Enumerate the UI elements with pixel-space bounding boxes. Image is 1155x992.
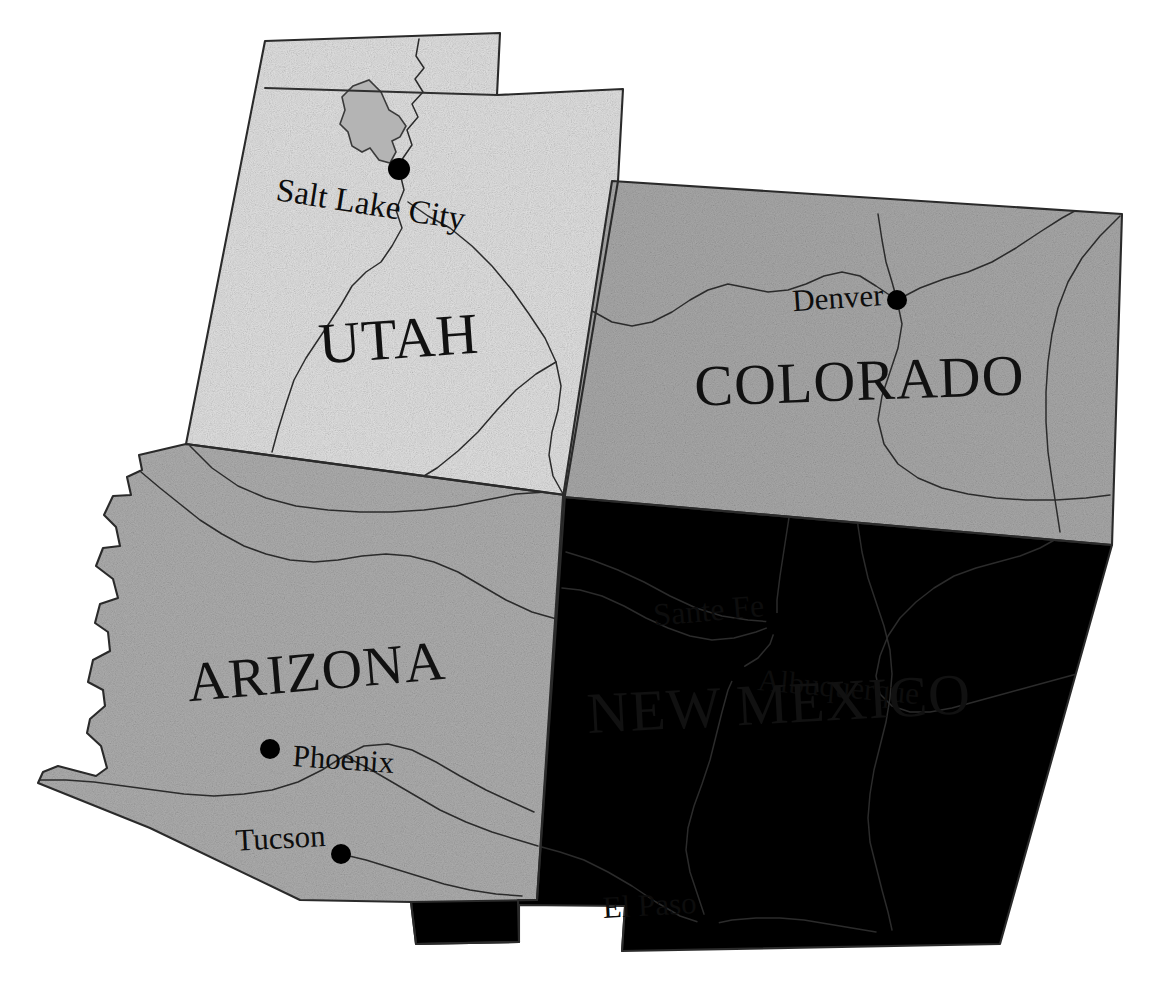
city-dot-phoenix[interactable]: [260, 739, 280, 759]
city-dot-el-paso[interactable]: [697, 914, 719, 936]
state-label-colorado: COLORADO: [693, 342, 1025, 418]
city-dot-denver[interactable]: [887, 290, 907, 310]
city-label-tucson: Tucson: [234, 818, 326, 858]
city-dot-sante-fe[interactable]: [766, 613, 788, 635]
city-label-phoenix: Phoenix: [292, 738, 396, 780]
state-utah-fill[interactable]: [186, 33, 623, 495]
state-label-utah: UTAH: [316, 301, 481, 377]
map-canvas: Salt Lake City Denver Sante Fe Albuquerq…: [0, 0, 1155, 992]
southwest-states-map: Salt Lake City Denver Sante Fe Albuquerq…: [0, 0, 1155, 992]
city-label-el-paso: El Paso: [602, 885, 698, 925]
city-dot-salt-lake-city[interactable]: [388, 158, 410, 180]
city-dot-tucson[interactable]: [331, 844, 351, 864]
city-label-denver: Denver: [791, 277, 885, 318]
